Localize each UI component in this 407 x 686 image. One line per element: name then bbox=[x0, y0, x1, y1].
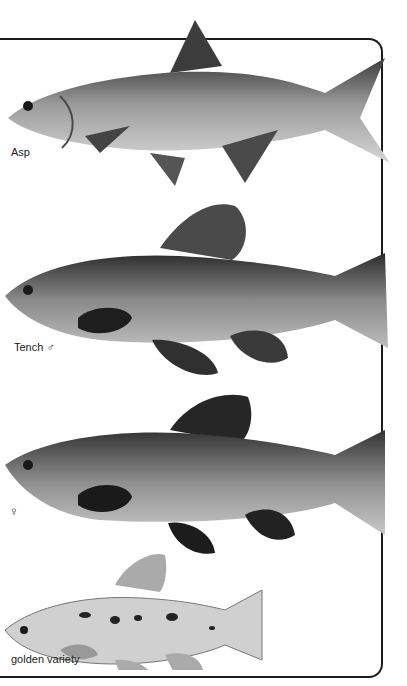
tench-male-illustration bbox=[0, 198, 395, 378]
label-tench-male: Tench ♂ bbox=[14, 341, 55, 353]
label-asp: Asp bbox=[11, 146, 30, 158]
asp-illustration bbox=[0, 18, 395, 188]
label-tench-golden: golden variety bbox=[11, 653, 80, 665]
tench-golden-illustration bbox=[0, 550, 280, 670]
tench-female-illustration bbox=[0, 385, 395, 555]
label-tench-female: ♀ bbox=[9, 504, 19, 519]
